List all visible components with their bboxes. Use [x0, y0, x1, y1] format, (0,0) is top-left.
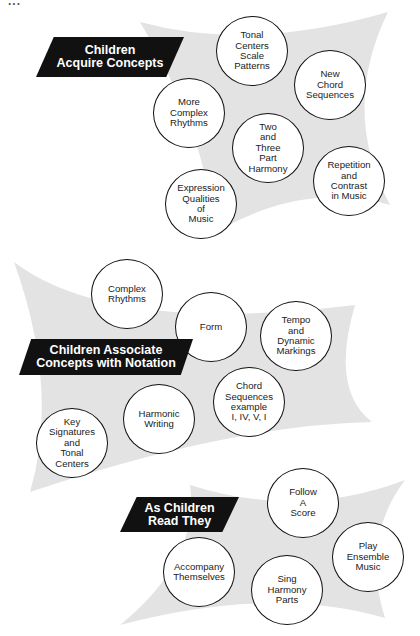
node-text: I, IV, V, I	[231, 412, 266, 422]
banner-line: As Children	[120, 502, 239, 515]
banner-children-associate-concepts: Children Associate Concepts with Notatio…	[19, 339, 193, 375]
node-new-chord-sequences: New Chord Sequences	[294, 50, 366, 120]
node-play-ensemble-music: Play Ensemble Music	[332, 522, 404, 592]
node-text: Music	[355, 562, 380, 572]
node-sing-harmony-parts: Sing Harmony Parts	[251, 555, 323, 625]
node-key-signatures-and-tonal-centers: Key Signatures and Tonal Centers	[36, 408, 108, 478]
node-accompany-themselves: Accompany Themselves	[163, 537, 235, 607]
node-text: in Music	[331, 191, 366, 201]
node-expression-qualities-of-music: Expression Qualities of Music	[165, 169, 237, 239]
node-text: Form	[200, 322, 222, 332]
node-text: Patterns	[234, 61, 270, 71]
banner-line: Read They	[120, 515, 239, 528]
banner-line: Concepts with Notation	[19, 357, 193, 370]
node-chord-sequences-example: Chord Sequences example I, IV, V, I	[213, 367, 285, 437]
node-text: Themselves	[173, 572, 225, 582]
node-text: Music	[188, 214, 213, 224]
node-text: Centers	[55, 459, 89, 469]
node-text: Rhythms	[108, 294, 146, 304]
banner-children-acquire-concepts: Children Acquire Concepts	[36, 37, 184, 77]
banner-line: Acquire Concepts	[36, 57, 184, 70]
node-text: Score	[290, 508, 315, 518]
node-follow-a-score: Follow A Score	[267, 468, 339, 538]
node-text: Rhythms	[170, 118, 208, 128]
node-more-complex-rhythms: More Complex Rhythms	[153, 78, 225, 148]
node-harmonic-writing: Harmonic Writing	[123, 384, 195, 454]
node-text: Harmony	[249, 164, 288, 174]
node-repetition-and-contrast: Repetition and Contrast in Music	[313, 146, 385, 216]
banner-as-children-read-they: As Children Read They	[120, 497, 239, 532]
node-text: Parts	[276, 595, 298, 605]
node-tempo-and-dynamic-markings: Tempo and Dynamic Markings	[260, 301, 332, 371]
node-complex-rhythms: Complex Rhythms	[91, 259, 163, 329]
node-text: Markings	[277, 346, 316, 356]
node-tonal-centers-scale-patterns: Tonal Centers Scale Patterns	[216, 16, 288, 86]
cropped-header-text: ...	[8, 0, 21, 8]
node-text: Writing	[144, 419, 174, 429]
node-two-and-three-part-harmony: Two and Three Part Harmony	[232, 113, 304, 183]
concept-diagram-page: ... Children Acquire Concepts Tonal Cent…	[0, 0, 420, 636]
node-text: Sequences	[306, 90, 354, 100]
